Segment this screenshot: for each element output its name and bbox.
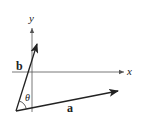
x-axis-label: x	[126, 65, 132, 77]
y-axis-label: y	[28, 12, 34, 24]
theta-label: θ	[25, 92, 30, 103]
vector-b-label: b	[16, 59, 23, 73]
vector-a-label: a	[67, 101, 73, 115]
vector-diagram: y x b a θ	[0, 0, 144, 120]
diagram-svg: y x b a θ	[0, 0, 144, 120]
